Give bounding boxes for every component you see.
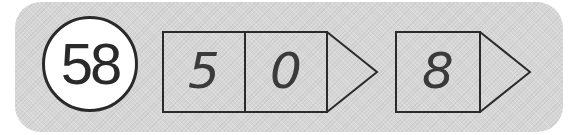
answer-cell-1-2[interactable]: 0 [245,46,327,96]
answer-cell-2-1[interactable]: 8 [396,46,480,96]
answer-cell-1-1[interactable]: 5 [163,46,245,96]
